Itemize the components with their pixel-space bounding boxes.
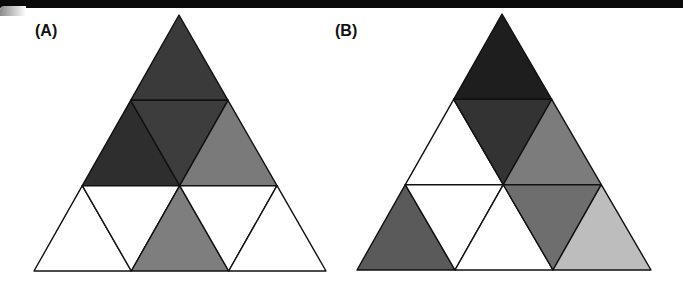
cell-b-r0-p0 <box>454 14 552 99</box>
triangle-panel-a <box>34 15 326 271</box>
triangle-panel-b <box>357 14 651 270</box>
cell-a-r0-p0 <box>131 15 228 100</box>
triangle-figures <box>0 0 683 282</box>
